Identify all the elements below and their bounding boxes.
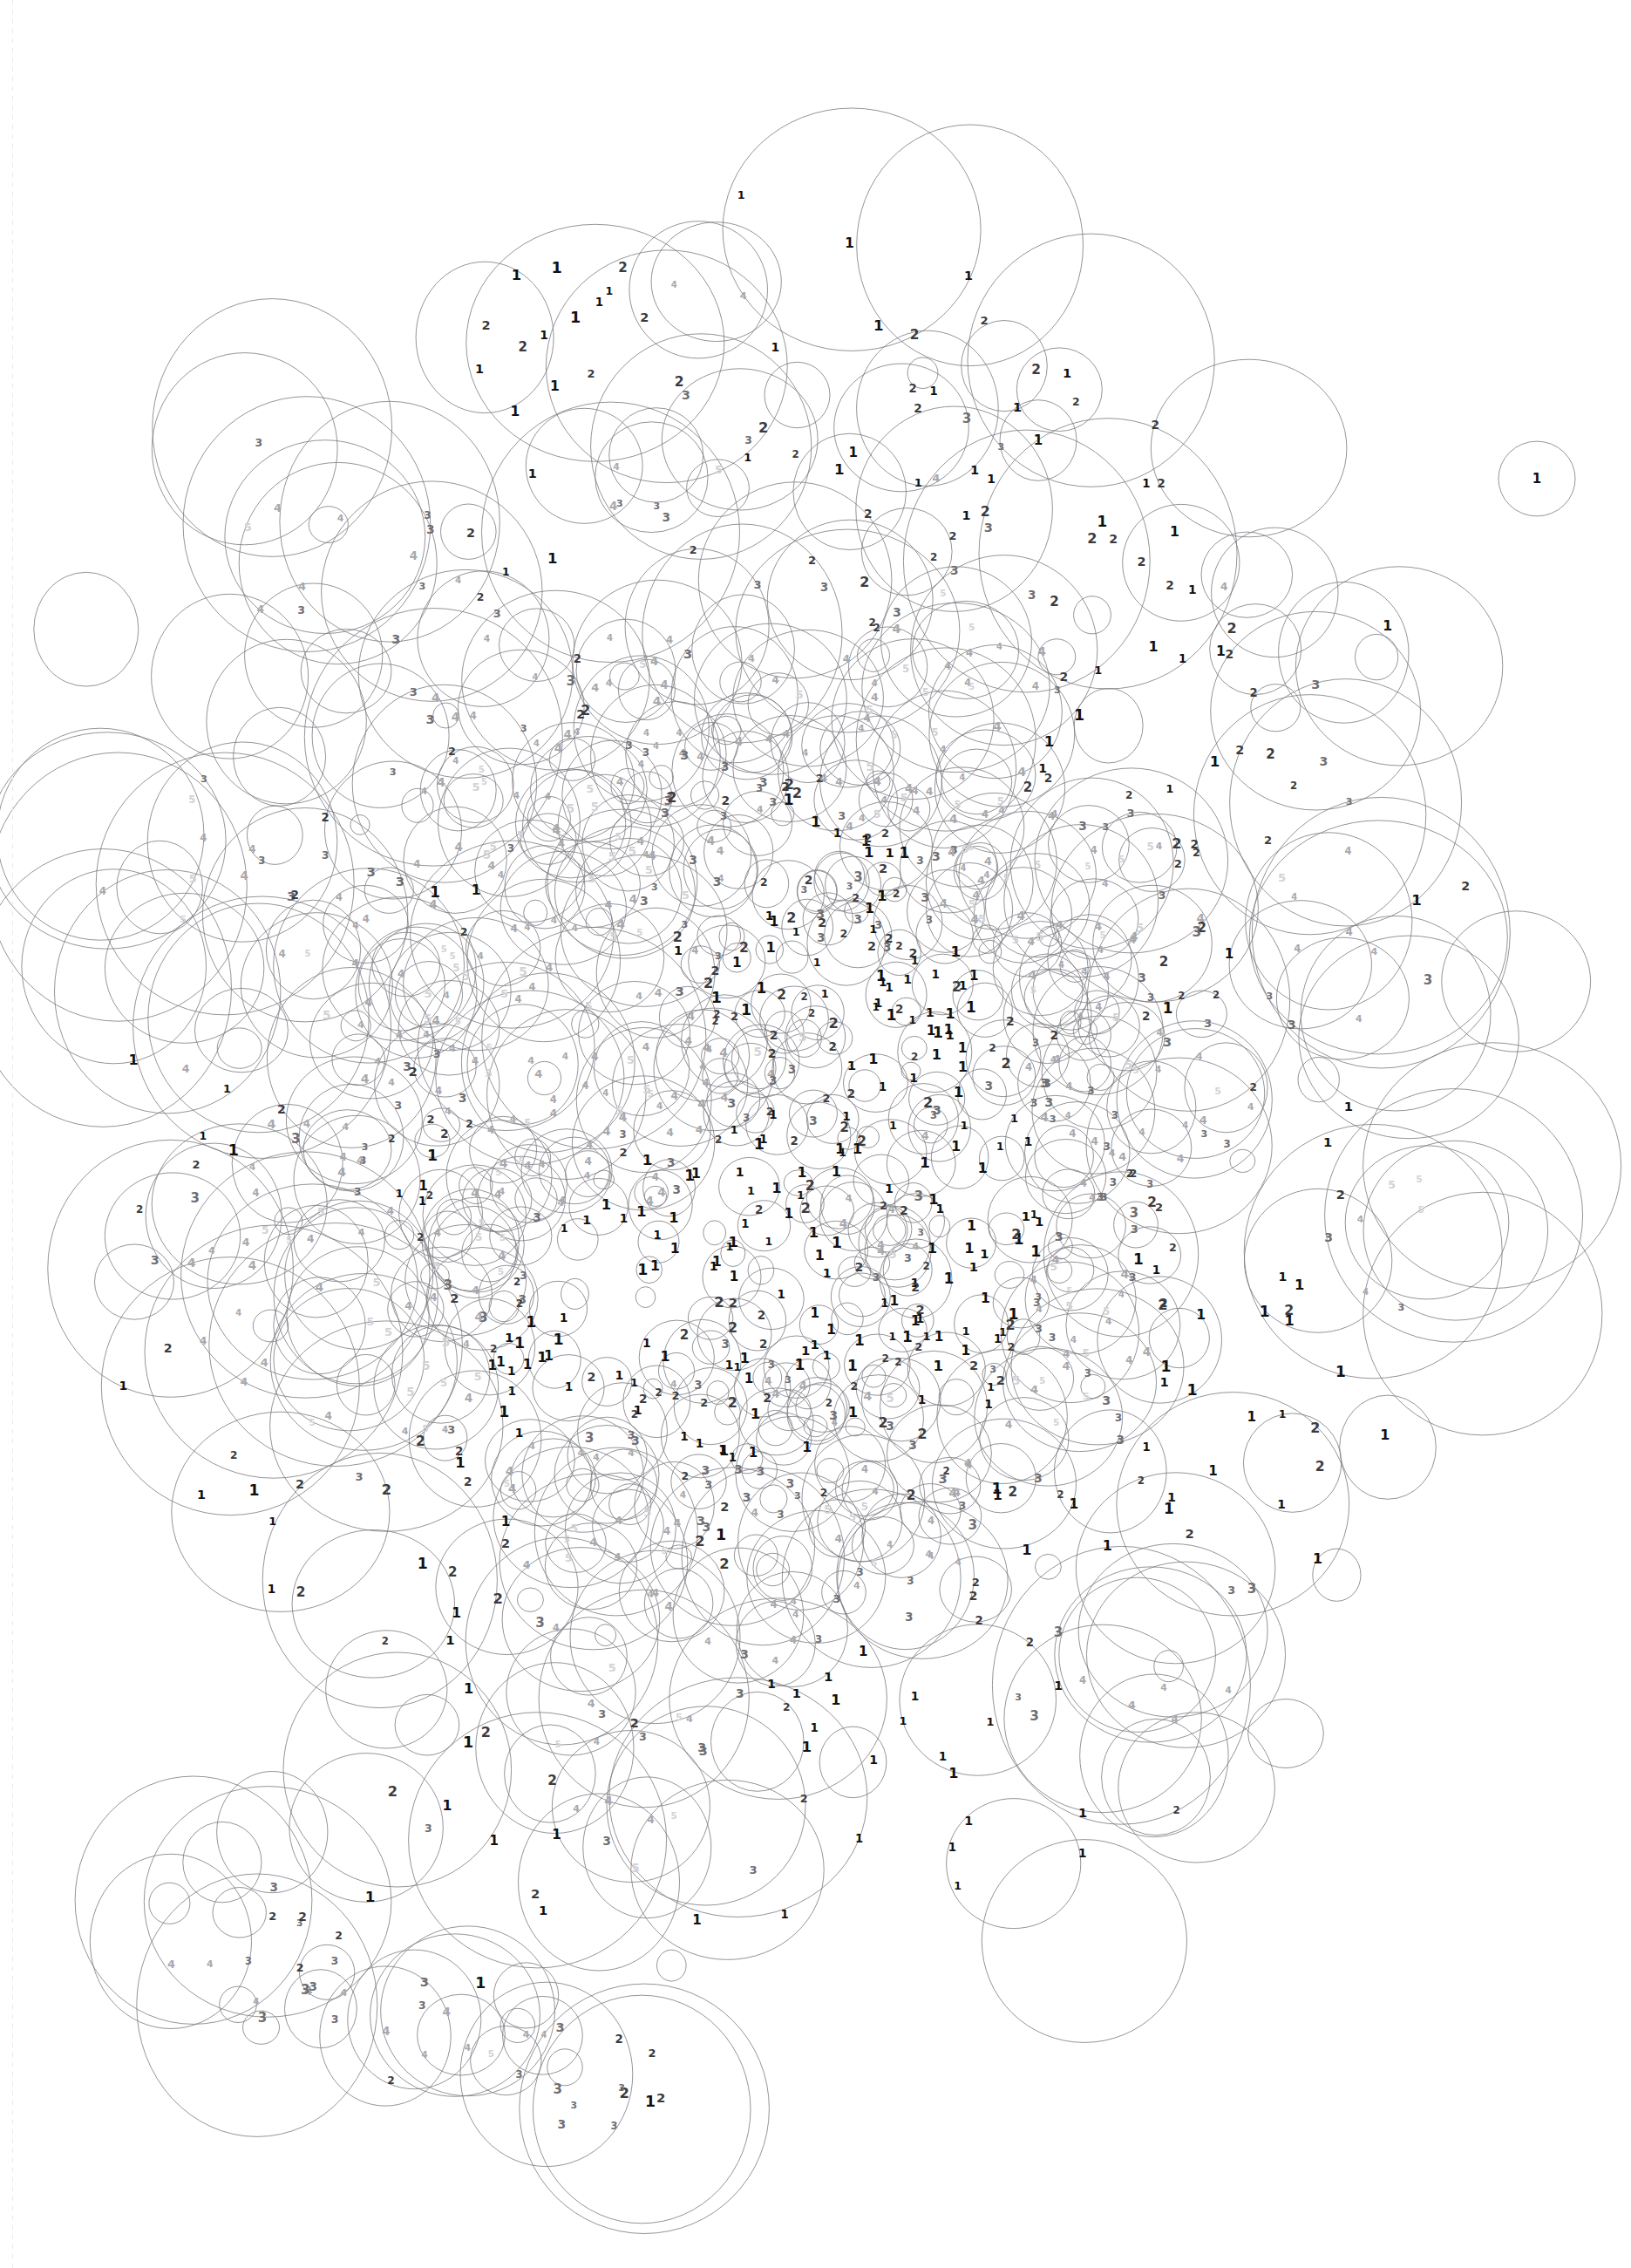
- depth-label: 4: [887, 1540, 893, 1549]
- depth-label: 5: [940, 589, 946, 598]
- depth-label: 4: [1118, 1150, 1126, 1163]
- depth-label: 2: [818, 915, 826, 930]
- depth-label: 2: [758, 1308, 765, 1322]
- depth-label: 5: [406, 1386, 414, 1399]
- depth-label: 4: [593, 1452, 599, 1463]
- depth-label: 5: [474, 1370, 482, 1383]
- depth-label: 4: [252, 1187, 259, 1199]
- depth-label: 1: [1196, 1307, 1206, 1323]
- depth-label: 1: [797, 1188, 805, 1202]
- depth-label: 4: [541, 2030, 547, 2040]
- depth-label: 2: [969, 1358, 978, 1372]
- depth-label: 3: [874, 918, 882, 931]
- depth-label: 1: [712, 1253, 722, 1270]
- depth-label: 4: [940, 897, 948, 910]
- depth-label: 1: [810, 1305, 819, 1321]
- depth-label: 3: [1087, 1085, 1094, 1097]
- depth-label: 4: [558, 838, 565, 850]
- depth-label: 2: [426, 1113, 434, 1126]
- depth-label: 3: [681, 919, 688, 930]
- depth-label: 1: [539, 1903, 547, 1917]
- depth-label: 3: [1035, 1322, 1043, 1335]
- depth-label: 3: [291, 1131, 301, 1147]
- depth-label: 3: [788, 1062, 796, 1076]
- depth-label: 4: [1069, 1127, 1076, 1140]
- depth-label: 2: [975, 1614, 982, 1627]
- depth-label: 4: [430, 1291, 438, 1304]
- depth-label: 5: [188, 793, 195, 806]
- depth-label: 1: [551, 259, 561, 276]
- depth-label: 4: [1052, 1253, 1060, 1266]
- depth-label: 4: [200, 832, 207, 844]
- depth-label: 4: [261, 1356, 268, 1369]
- depth-label: 3: [1054, 684, 1061, 696]
- depth-label: 4: [859, 813, 866, 824]
- depth-label: 3: [557, 2117, 566, 2131]
- depth-label: 5: [968, 622, 975, 632]
- depth-label: 1: [977, 1160, 987, 1176]
- depth-label: 2: [1249, 686, 1257, 699]
- depth-label: 2: [1235, 743, 1244, 757]
- depth-label: 1: [823, 1348, 832, 1362]
- depth-label: 4: [364, 996, 372, 1009]
- depth-label: 4: [358, 1227, 365, 1238]
- depth-label: 4: [686, 1713, 693, 1725]
- depth-label: 1: [939, 1749, 947, 1763]
- depth-label: 1: [505, 1330, 513, 1345]
- depth-label: 3: [914, 1188, 924, 1204]
- depth-label: 1: [757, 979, 767, 997]
- depth-label: 4: [1156, 1027, 1162, 1039]
- depth-label: 5: [570, 1522, 578, 1535]
- depth-label: 1: [792, 1686, 801, 1700]
- depth-label: 4: [374, 1056, 381, 1067]
- depth-label: 1: [499, 1403, 509, 1420]
- depth-label: 5: [849, 1511, 856, 1523]
- depth-label: 2: [1461, 879, 1470, 893]
- depth-label: 1: [1260, 1303, 1270, 1320]
- depth-label: 1: [848, 445, 857, 460]
- depth-label: 4: [1066, 1080, 1073, 1093]
- depth-label: 4: [707, 834, 715, 848]
- depth-label: 2: [829, 1015, 839, 1032]
- depth-label: 1: [1133, 1250, 1144, 1268]
- depth-label: 2: [466, 526, 475, 540]
- depth-label: 2: [416, 1434, 425, 1449]
- depth-label: 1: [908, 1013, 916, 1026]
- depth-label: 4: [1017, 909, 1025, 923]
- depth-label: 2: [969, 1589, 978, 1603]
- depth-label: 4: [706, 1044, 712, 1054]
- depth-label: 1: [724, 1358, 733, 1372]
- depth-label: 4: [1095, 920, 1103, 933]
- depth-label: 2: [915, 1302, 924, 1317]
- depth-label: 5: [565, 1552, 572, 1564]
- depth-label: 2: [1138, 555, 1146, 569]
- depth-label: 1: [731, 1123, 738, 1136]
- depth-label: 4: [721, 1092, 729, 1104]
- depth-label: 1: [1044, 733, 1054, 750]
- depth-label: 1: [853, 1141, 862, 1157]
- depth-label: 4: [648, 848, 656, 862]
- depth-label: 2: [829, 1039, 837, 1053]
- depth-label: 4: [771, 1387, 779, 1400]
- depth-label: 4: [316, 1280, 323, 1294]
- depth-label: 1: [869, 1753, 878, 1767]
- depth-label: 4: [388, 1077, 395, 1088]
- depth-label: 1: [1279, 1407, 1287, 1420]
- depth-label: 2: [715, 1134, 722, 1146]
- depth-label: 5: [627, 1053, 635, 1066]
- depth-label: 1: [560, 1311, 567, 1325]
- depth-label: 4: [581, 1080, 588, 1092]
- depth-label: 1: [716, 1526, 726, 1543]
- depth-label: 1: [1103, 1537, 1112, 1554]
- depth-label: 4: [1344, 845, 1351, 857]
- depth-label: 2: [864, 507, 873, 521]
- depth-label: 4: [993, 719, 1002, 733]
- depth-label: 4: [615, 1551, 622, 1563]
- depth-label: 3: [694, 1379, 702, 1392]
- depth-label: 2: [948, 529, 956, 542]
- depth-label: 4: [765, 733, 772, 746]
- depth-label: 1: [834, 461, 844, 478]
- depth-label: 3: [418, 1999, 426, 2012]
- depth-label: 4: [684, 1035, 692, 1047]
- depth-label: 4: [554, 741, 563, 755]
